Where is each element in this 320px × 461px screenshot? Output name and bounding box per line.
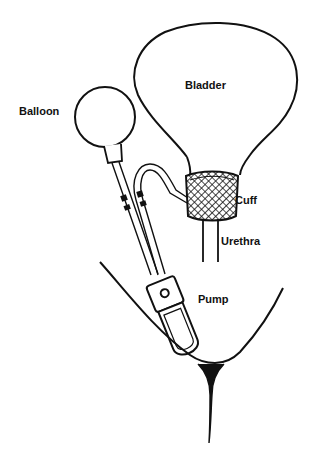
pump-shape (146, 275, 203, 358)
bladder-shape (134, 23, 297, 175)
cuff-shape (186, 172, 238, 221)
cuff-tube (134, 164, 188, 275)
cuff-label: Cuff (235, 195, 257, 206)
diagram-svg (0, 0, 320, 461)
urethra-label: Urethra (221, 236, 260, 247)
bladder-neck-left (187, 157, 190, 176)
balloon-neck (104, 144, 122, 163)
pump-label: Pump (198, 294, 229, 305)
diagram-canvas: Bladder Balloon Cuff Urethra Pump (0, 0, 320, 461)
balloon-label: Balloon (19, 106, 59, 117)
anatomy-raphe (198, 364, 224, 443)
bladder-label: Bladder (185, 80, 226, 91)
balloon-shape (75, 87, 135, 147)
